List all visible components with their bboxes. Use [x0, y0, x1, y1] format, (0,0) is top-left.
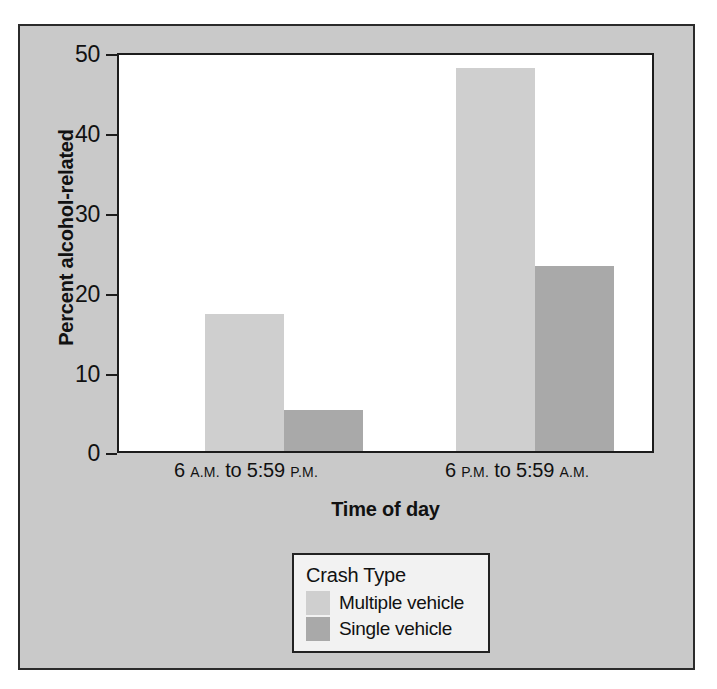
- y-tick-label-30: 30: [75, 201, 100, 228]
- y-tick-label-0: 0: [88, 440, 101, 467]
- x-axis-title: Time of day: [117, 498, 654, 521]
- bar-single-vehicle-day[interactable]: [284, 410, 363, 451]
- x-cat-1-ampm-end: A.M.: [559, 464, 589, 480]
- x-category-label-1: 6 P.M. to 5:59 A.M.: [388, 459, 646, 482]
- x-category-label-0: 6 A.M. to 5:59 P.M.: [117, 459, 375, 482]
- legend-label-multiple-vehicle: Multiple vehicle: [339, 592, 464, 614]
- y-tick-label-50: 50: [75, 41, 100, 68]
- legend-label-single-vehicle: Single vehicle: [339, 618, 452, 640]
- x-cat-1-ampm-start: P.M.: [461, 464, 489, 480]
- y-tick-mark: [106, 453, 117, 455]
- y-tick-mark: [106, 374, 117, 376]
- legend-item-multiple-vehicle[interactable]: Multiple vehicle: [306, 591, 478, 615]
- x-cat-1-number: 6: [445, 459, 456, 481]
- x-cat-0-ampm-end: P.M.: [290, 464, 318, 480]
- bar-single-vehicle-night[interactable]: [535, 266, 614, 451]
- legend-title: Crash Type: [306, 564, 478, 587]
- x-cat-0-ampm-start: A.M.: [190, 464, 220, 480]
- legend-item-single-vehicle[interactable]: Single vehicle: [306, 617, 478, 641]
- x-cat-0-middle: to 5:59: [225, 459, 285, 481]
- x-cat-0-number: 6: [174, 459, 185, 481]
- legend-swatch-multiple-vehicle: [306, 591, 330, 615]
- legend-swatch-single-vehicle: [306, 617, 330, 641]
- legend: Crash Type Multiple vehicle Single vehic…: [292, 553, 490, 653]
- y-tick-label-40: 40: [75, 121, 100, 148]
- plot-area: [117, 53, 654, 453]
- bar-multiple-vehicle-day[interactable]: [205, 314, 284, 451]
- y-tick-label-10: 10: [75, 361, 100, 388]
- bars-layer: [119, 55, 652, 451]
- y-tick-mark: [106, 214, 117, 216]
- y-axis: 50 40 30 20 10 0: [20, 26, 117, 455]
- y-tick-mark: [106, 54, 117, 56]
- bar-multiple-vehicle-night[interactable]: [456, 68, 535, 451]
- x-cat-1-middle: to 5:59: [494, 459, 554, 481]
- y-tick-label-20: 20: [75, 281, 100, 308]
- y-tick-mark: [106, 134, 117, 136]
- figure-frame: Percent alcohol-related 50 40 30 20 10 0: [18, 24, 695, 670]
- y-tick-mark: [106, 294, 117, 296]
